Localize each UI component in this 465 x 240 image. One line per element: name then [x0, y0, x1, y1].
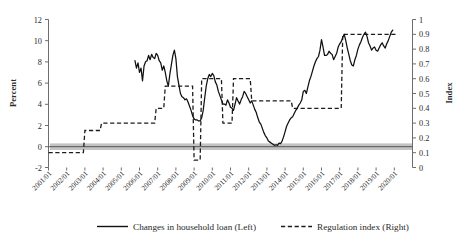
- right-ytick-label: 0.7: [419, 60, 429, 69]
- x-tick-label: 2020/01: [376, 169, 400, 193]
- right-ytick-label: 0.3: [419, 119, 429, 128]
- right-axis-title: Index: [444, 82, 454, 104]
- left-ytick-label: 4: [38, 100, 43, 109]
- right-ytick-label: 0.6: [419, 75, 429, 84]
- series-regulation-index: [49, 34, 398, 160]
- right-ytick-label: 0.4: [419, 104, 430, 113]
- chart-svg: 12 10 8 6 4 2 0 -2 Percent 1 0.9: [0, 0, 465, 240]
- left-ytick-label: -2: [35, 164, 42, 173]
- left-ytick-label: 0: [38, 143, 42, 152]
- left-ytick-label: 6: [38, 79, 42, 88]
- right-ytick-label: 0.1: [419, 149, 429, 158]
- right-ytick-label: 0.8: [419, 45, 429, 54]
- right-ytick-label: 0: [419, 164, 423, 173]
- zero-axis-line: [49, 143, 413, 150]
- right-ytick-label: 1: [419, 16, 423, 25]
- chart-legend: Changes in household loan (Left) Regulat…: [97, 222, 409, 232]
- x-axis-tick-labels: 2001/012002/012003/012004/012005/012006/…: [30, 168, 399, 193]
- x-tick-label: 2010/01: [194, 169, 218, 193]
- series-household-loan: [135, 30, 393, 145]
- left-y-axis: 12 10 8 6 4 2 0 -2 Percent: [8, 16, 49, 173]
- x-axis-minor-ticks: [51, 143, 411, 150]
- legend-label-regulation-index: Regulation index (Right): [317, 222, 409, 232]
- right-ytick-label: 0.9: [419, 30, 429, 39]
- left-axis-title: Percent: [8, 79, 18, 107]
- chart-container: 12 10 8 6 4 2 0 -2 Percent 1 0.9: [0, 0, 465, 240]
- left-ytick-label: 10: [34, 37, 42, 46]
- right-ytick-label: 0.2: [419, 134, 429, 143]
- left-ytick-label: 8: [38, 58, 42, 67]
- right-ytick-label: 0.5: [419, 90, 429, 99]
- right-y-axis: 1 0.9 0.8 0.7 0.6 0.5 0.4 0.3 0.2 0.1 0 …: [413, 16, 455, 173]
- left-ytick-label: 2: [38, 122, 42, 131]
- left-ytick-label: 12: [34, 16, 42, 25]
- legend-label-household-loan: Changes in household loan (Left): [133, 222, 256, 232]
